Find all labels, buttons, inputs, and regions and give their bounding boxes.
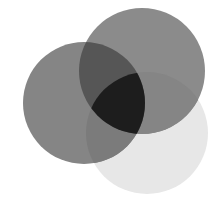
venn-svg	[0, 0, 221, 205]
venn-diagram	[0, 0, 221, 205]
